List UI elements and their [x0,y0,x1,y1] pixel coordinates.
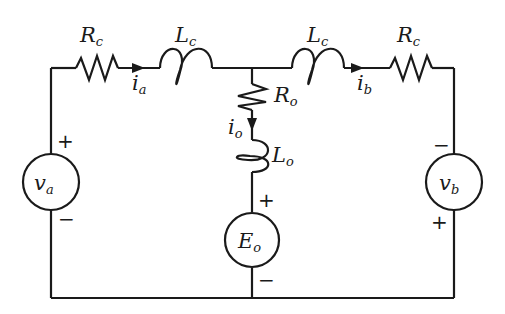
resistor-ro [238,84,266,110]
label-ro: Ro [273,83,298,109]
label-vb: vb [439,171,459,197]
inductor-lc-left [160,49,212,84]
wires [51,68,454,298]
inductor-lo [237,140,268,172]
label-io: io [228,115,243,141]
inductor-lc-right [292,49,344,84]
label-lc-right: Lc [306,23,329,49]
label-ia: ia [132,71,146,97]
va-minus-sign: − [58,207,75,231]
circuit-diagram: Rc Lc Lc Rc Ro Lo va vb Eo ia ib io + − … [0,0,505,314]
vb-plus-sign: + [431,210,448,234]
label-lc-left: Lc [174,23,197,49]
eo-plus-sign: + [258,188,275,212]
label-eo: Eo [237,229,261,255]
resistor-rc-left [76,56,118,80]
label-va: va [34,171,54,197]
label-lo: Lo [271,143,294,169]
label-rc-left: Rc [79,23,104,49]
label-ib: ib [357,71,372,97]
current-arrow-io [247,118,257,131]
va-plus-sign: + [57,129,74,153]
eo-minus-sign: − [258,268,275,292]
label-rc-right: Rc [396,23,421,49]
vb-minus-sign: − [433,133,450,157]
resistor-rc-right [390,56,432,80]
